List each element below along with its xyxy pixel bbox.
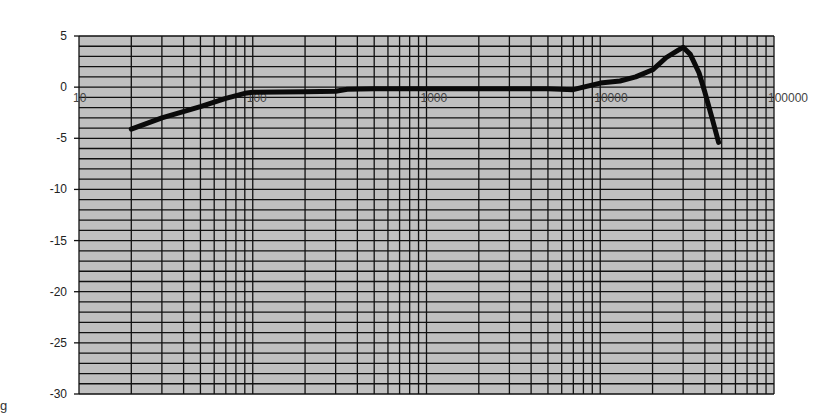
cut-off-label: g — [0, 398, 7, 413]
x-tick-label: 1000 — [421, 91, 448, 105]
y-tick-label: -30 — [50, 387, 68, 401]
y-axis-ticks: 50-5-10-15-20-25-30 — [50, 29, 79, 401]
y-tick-label: -15 — [50, 234, 68, 248]
x-tick-label: 10000 — [594, 91, 628, 105]
x-tick-label: 100000 — [768, 91, 808, 105]
x-tick-label: 10 — [73, 91, 87, 105]
y-tick-label: -20 — [50, 285, 68, 299]
frequency-response-chart: 50-5-10-15-20-25-30 10100100010000100000 — [0, 0, 826, 417]
y-tick-label: -10 — [50, 182, 68, 196]
y-tick-label: -25 — [50, 336, 68, 350]
y-tick-label: 0 — [60, 80, 67, 94]
y-tick-label: -5 — [56, 131, 67, 145]
y-tick-label: 5 — [60, 29, 67, 43]
